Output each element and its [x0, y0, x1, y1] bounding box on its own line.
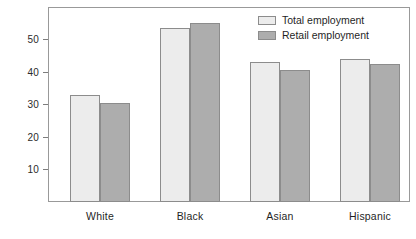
y-axis: 10 20 30 40 50 — [0, 0, 48, 239]
bar-hispanic-retail-employment[interactable] — [370, 64, 400, 202]
x-label-asian: Asian — [250, 210, 310, 222]
legend-swatch-total-icon — [258, 16, 276, 25]
x-axis: White Black Asian Hispanic — [48, 206, 410, 232]
bar-group-black — [160, 7, 238, 202]
bar-hispanic-total-employment[interactable] — [340, 59, 370, 202]
bar-asian-total-employment[interactable] — [250, 62, 280, 202]
legend-label-retail-employment: Retail employment — [282, 29, 369, 42]
bar-chart: 10 20 30 40 50 — [0, 0, 416, 239]
x-label-hispanic: Hispanic — [340, 210, 400, 222]
legend-item-retail-employment: Retail employment — [258, 29, 406, 42]
bar-white-total-employment[interactable] — [70, 95, 100, 202]
legend-label-total-employment: Total employment — [282, 14, 364, 27]
bar-white-retail-employment[interactable] — [100, 103, 130, 202]
y-tick-label: 50 — [27, 33, 39, 46]
bar-group-white — [70, 7, 148, 202]
bar-black-retail-employment[interactable] — [190, 23, 220, 202]
y-tick-label: 10 — [27, 163, 39, 176]
legend-swatch-retail-icon — [258, 31, 276, 40]
y-tick-label: 30 — [27, 98, 39, 111]
x-label-black: Black — [160, 210, 220, 222]
y-tick-label: 20 — [27, 131, 39, 144]
bar-black-total-employment[interactable] — [160, 28, 190, 202]
legend-item-total-employment: Total employment — [258, 14, 406, 27]
bar-asian-retail-employment[interactable] — [280, 70, 310, 202]
legend: Total employment Retail employment — [258, 14, 406, 44]
y-tick-label: 40 — [27, 66, 39, 79]
x-label-white: White — [70, 210, 130, 222]
